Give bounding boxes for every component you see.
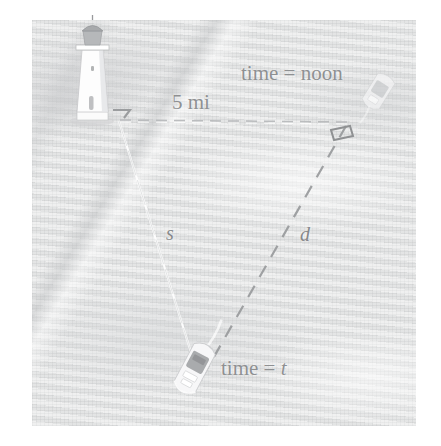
- angle-mark-lighthouse-icon: [113, 110, 130, 118]
- label-time-t: time = t: [221, 358, 287, 379]
- label-segment-d: d: [300, 224, 310, 244]
- label-time-noon-text: time = noon: [241, 61, 343, 85]
- label-segment-d-text: d: [300, 223, 310, 245]
- label-segment-s-text: s: [166, 222, 174, 244]
- label-distance-5mi: 5 mi: [172, 92, 210, 113]
- segment-s-shadow: [119, 121, 199, 378]
- ship-at-noon: [350, 71, 396, 128]
- segment-5mi: [120, 120, 349, 122]
- lighthouse: [70, 15, 114, 126]
- label-segment-s: s: [166, 223, 174, 243]
- label-time-noon: time = noon: [241, 63, 343, 84]
- label-time-t-text: time = t: [221, 356, 287, 380]
- segment-d: [203, 126, 346, 376]
- segment-5mi-highlight: [120, 122, 349, 124]
- label-distance-5mi-text: 5 mi: [172, 90, 210, 114]
- figure-root: time = noon 5 mi time = t s d: [0, 0, 441, 446]
